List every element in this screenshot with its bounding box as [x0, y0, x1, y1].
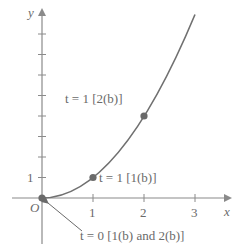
annotation-t0: t = 0 [1(b) and 2(b)]: [80, 228, 184, 243]
origin-label: O: [30, 200, 40, 215]
point-1-1: [89, 174, 96, 181]
x-tick-label-1: 1: [89, 205, 96, 220]
x-axis-label: x: [223, 204, 230, 219]
point-2-4: [140, 112, 147, 119]
y-axis-label: y: [26, 5, 34, 20]
annotation-t1-1b: t = 1 [1(b)]: [99, 170, 157, 185]
point-origin: [38, 194, 45, 201]
annotation-t1-2b: t = 1 [2(b)]: [65, 91, 123, 106]
y-tick-label-1: 1: [27, 170, 34, 185]
x-tick-label-3: 3: [191, 205, 198, 220]
origin-pointer-arrow: [48, 203, 82, 231]
x-tick-label-2: 2: [140, 205, 147, 220]
parametric-curve-diagram: y x O 1 2 3 1 t = 1 [2(b)] t = 1 [1(b)] …: [0, 0, 237, 246]
